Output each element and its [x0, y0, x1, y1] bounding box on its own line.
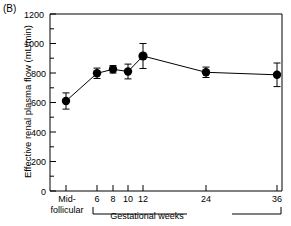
- x-ticks: [66, 185, 277, 191]
- axis-frame: [50, 14, 282, 191]
- chart-figure: (B) Effective renal plasma flow (mL/min)…: [0, 0, 291, 226]
- data-point-week6: [93, 69, 101, 77]
- data-point-midfollicular: [62, 97, 70, 105]
- data-point-week24: [202, 68, 210, 76]
- gestational-weeks-bracket: [93, 207, 281, 214]
- data-point-week8: [109, 65, 117, 73]
- y-major-ticks: [50, 14, 56, 191]
- data-point-week12: [138, 51, 147, 60]
- data-point-week10: [124, 67, 132, 75]
- data-point-week36: [273, 71, 281, 79]
- plot-svg: [0, 0, 291, 226]
